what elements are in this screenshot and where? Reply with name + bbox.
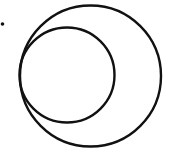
- external-point: [1, 22, 5, 26]
- tangent-circles-diagram: [0, 0, 170, 154]
- background: [0, 0, 170, 154]
